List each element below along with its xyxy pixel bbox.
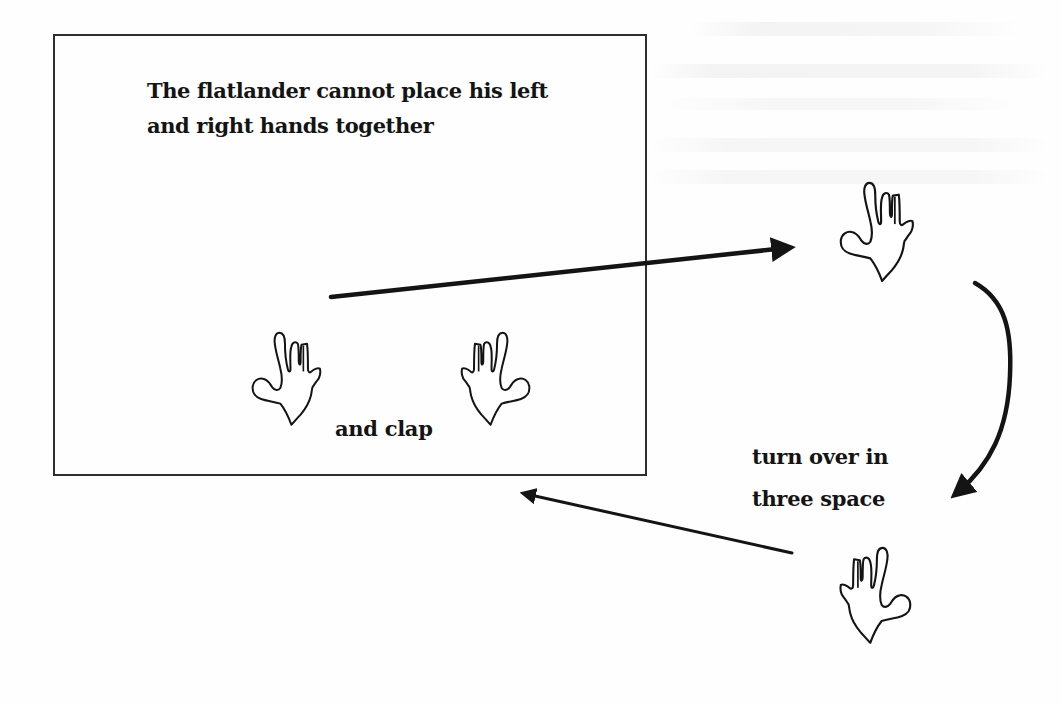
lifted-hand-icon: [841, 183, 913, 281]
turn-caption-line-2: three space: [752, 478, 888, 520]
clap-caption: and clap: [335, 416, 433, 441]
plane-caption-line-2: and right hands together: [147, 108, 548, 143]
plane-caption-line-1: The flatlander cannot place his left: [147, 73, 548, 108]
turn-caption-line-1: turn over in: [752, 436, 888, 478]
figure-canvas: The flatlander cannot place his left and…: [0, 0, 1061, 703]
turn-caption: turn over in three space: [752, 436, 888, 520]
bleed-through-text: [690, 22, 1020, 36]
bleed-through-text: [650, 138, 1050, 152]
flipped-hand-icon: [840, 548, 910, 643]
turn-over-arrow: [958, 283, 1010, 492]
bleed-through-text: [650, 170, 1050, 184]
bleed-through-text: [650, 64, 1050, 78]
plane-caption: The flatlander cannot place his left and…: [147, 73, 548, 143]
bleed-through-text: [660, 98, 1020, 110]
